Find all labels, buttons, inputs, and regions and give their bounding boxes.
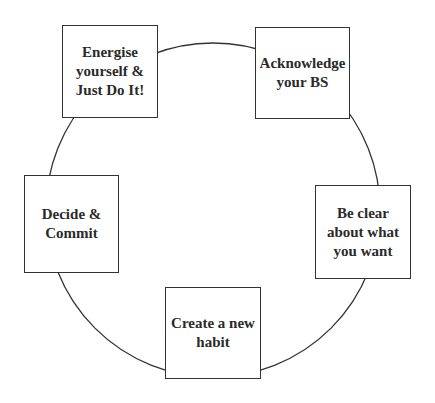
step-acknowledge: Acknowledge your BS (255, 27, 350, 119)
step-be-clear: Be clear about what you want (315, 185, 411, 279)
step-label: Acknowledge your BS (260, 54, 346, 92)
step-label: Energise yourself & Just Do It! (76, 43, 144, 100)
step-label: Decide & Commit (42, 205, 102, 243)
step-decide-commit: Decide & Commit (24, 175, 119, 273)
step-label: Create a new habit (171, 314, 255, 352)
step-create-habit: Create a new habit (165, 287, 261, 379)
step-energise: Energise yourself & Just Do It! (62, 25, 158, 118)
step-label: Be clear about what you want (327, 204, 399, 261)
